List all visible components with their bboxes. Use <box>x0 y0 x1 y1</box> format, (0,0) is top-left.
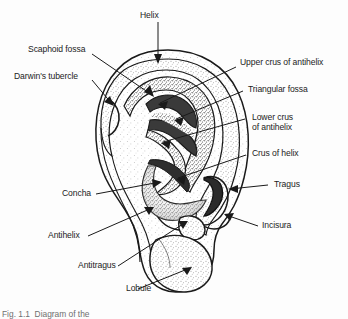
label-triangular-fossa: Triangular fossa <box>248 84 308 94</box>
label-helix: Helix <box>140 10 159 20</box>
label-antitragus: Antitragus <box>78 260 116 270</box>
label-antihelix: Antihelix <box>48 230 80 240</box>
label-crus-of-helix: Crus of helix <box>252 148 298 158</box>
label-incisura: Incisura <box>262 220 291 230</box>
label-tragus: Tragus <box>274 179 300 189</box>
label-scaphoid-fossa: Scaphoid fossa <box>28 44 85 54</box>
label-lower-crus-line2: of antihelix <box>252 122 292 132</box>
ear-anatomy-figure: Helix Scaphoid fossa Darwin's tubercle U… <box>0 0 348 319</box>
figure-caption: Fig. 1.1 Diagram of the <box>2 309 90 319</box>
label-upper-crus-of-antihelix: Upper crus of antihelix <box>240 57 323 67</box>
label-concha: Concha <box>62 188 91 198</box>
label-darwins-tubercle: Darwin's tubercle <box>14 71 78 81</box>
label-lower-crus-line1: Lower crus <box>252 112 293 122</box>
label-lobule: Lobule <box>126 283 151 293</box>
